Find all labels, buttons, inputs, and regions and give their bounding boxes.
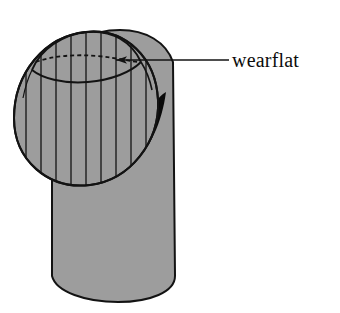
figure-container: wearflat (0, 0, 340, 313)
wearflat-diagram: wearflat (0, 0, 340, 313)
wearflat-label: wearflat (232, 49, 299, 71)
